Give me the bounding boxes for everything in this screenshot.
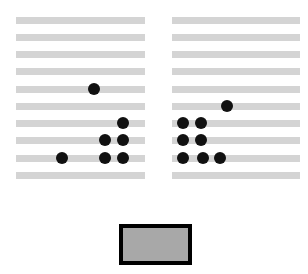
bar-row bbox=[172, 120, 300, 127]
bar-row bbox=[16, 17, 145, 24]
data-point-dot bbox=[177, 117, 189, 129]
data-point-dot bbox=[195, 134, 207, 146]
bar-row bbox=[172, 172, 300, 179]
bar-row bbox=[172, 155, 300, 162]
data-point-dot bbox=[214, 152, 226, 164]
bar-row bbox=[172, 103, 300, 110]
bar-row bbox=[16, 34, 145, 41]
data-point-dot bbox=[117, 117, 129, 129]
right-panel bbox=[172, 0, 300, 200]
bar-row bbox=[172, 34, 300, 41]
data-point-dot bbox=[56, 152, 68, 164]
data-point-dot bbox=[99, 152, 111, 164]
legend-swatch-box bbox=[119, 224, 192, 265]
bar-row bbox=[172, 17, 300, 24]
figure-canvas bbox=[0, 0, 308, 274]
data-point-dot bbox=[177, 152, 189, 164]
bar-row bbox=[172, 86, 300, 93]
data-point-dot bbox=[88, 83, 100, 95]
left-panel bbox=[16, 0, 145, 200]
bar-row bbox=[172, 68, 300, 75]
data-point-dot bbox=[117, 152, 129, 164]
data-point-dot bbox=[195, 117, 207, 129]
bar-row bbox=[16, 86, 145, 93]
bar-row bbox=[16, 68, 145, 75]
bar-row bbox=[16, 103, 145, 110]
data-point-dot bbox=[177, 134, 189, 146]
bar-row bbox=[172, 137, 300, 144]
bar-row bbox=[172, 51, 300, 58]
data-point-dot bbox=[197, 152, 209, 164]
bar-row bbox=[16, 172, 145, 179]
data-point-dot bbox=[117, 134, 129, 146]
data-point-dot bbox=[221, 100, 233, 112]
data-point-dot bbox=[99, 134, 111, 146]
bar-row bbox=[16, 51, 145, 58]
